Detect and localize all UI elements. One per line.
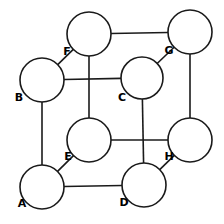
- node-circle-a[interactable]: [20, 165, 64, 209]
- node-label-b: B: [15, 91, 23, 104]
- node-circle-g[interactable]: [168, 10, 212, 54]
- graph-node-b[interactable]: B: [15, 58, 64, 104]
- node-circle-b[interactable]: [20, 58, 64, 102]
- node-label-e: E: [64, 150, 72, 163]
- graph-edge-a-d: [64, 185, 122, 186]
- node-label-g: G: [164, 44, 173, 57]
- node-label-a: A: [18, 197, 27, 210]
- graph-canvas: ABCDEFGH: [0, 0, 224, 224]
- graph-node-c[interactable]: C: [118, 57, 163, 104]
- node-label-d: D: [119, 196, 128, 209]
- graph-edge-b-c: [64, 78, 121, 79]
- graph-node-e[interactable]: E: [64, 118, 111, 163]
- node-circle-e[interactable]: [67, 118, 111, 162]
- graph-node-d[interactable]: D: [119, 163, 166, 209]
- node-circle-f[interactable]: [67, 12, 111, 56]
- cube-graph-diagram: ABCDEFGH: [0, 0, 224, 224]
- node-circle-h[interactable]: [168, 118, 212, 162]
- graph-node-h[interactable]: H: [164, 118, 212, 163]
- node-layer: ABCDEFGH: [15, 10, 212, 210]
- node-label-h: H: [164, 150, 173, 163]
- graph-edge-f-g: [111, 32, 168, 33]
- graph-node-f[interactable]: F: [63, 12, 111, 58]
- graph-edge-c-d: [142, 99, 143, 163]
- node-label-f: F: [63, 45, 71, 58]
- graph-node-g[interactable]: G: [164, 10, 212, 57]
- graph-node-a[interactable]: A: [18, 165, 64, 210]
- node-circle-c[interactable]: [121, 57, 163, 99]
- node-label-c: C: [118, 91, 126, 104]
- node-circle-d[interactable]: [122, 163, 166, 207]
